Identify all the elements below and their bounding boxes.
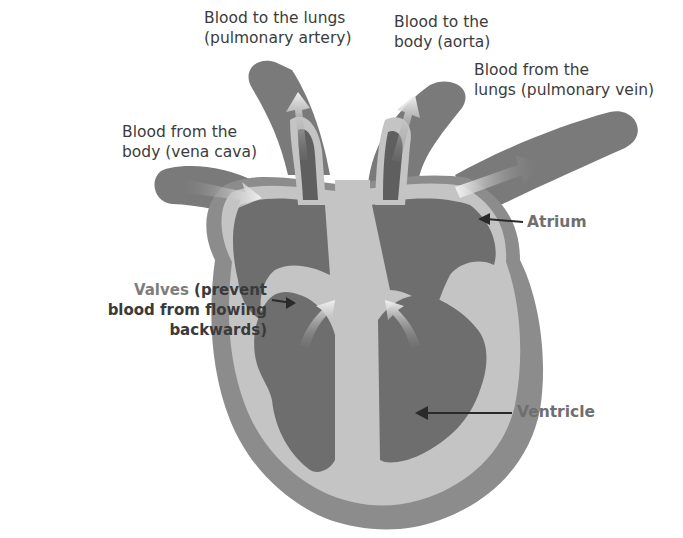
label-valves-line1-rest: (prevent: [189, 281, 267, 299]
septum: [335, 180, 372, 483]
label-vena-cava: Blood from the body (vena cava): [122, 122, 257, 162]
label-pulmonary-vein-line2: lungs (pulmonary vein): [474, 80, 654, 100]
label-valves-line3: backwards): [20, 320, 267, 340]
label-aorta-line1: Blood to the: [394, 12, 490, 32]
label-aorta-line2: body (aorta): [394, 32, 490, 52]
label-valves-line2: blood from flowing: [20, 300, 267, 320]
label-pulmonary-vein-line1: Blood from the: [474, 60, 654, 80]
label-pulmonary-artery: Blood to the lungs (pulmonary artery): [204, 8, 351, 48]
label-pulmonary-vein: Blood from the lungs (pulmonary vein): [474, 60, 654, 100]
label-aorta: Blood to the body (aorta): [394, 12, 490, 52]
label-vena-cava-line1: Blood from the: [122, 122, 257, 142]
label-pulmonary-artery-line1: Blood to the lungs: [204, 8, 351, 28]
label-pulmonary-artery-line2: (pulmonary artery): [204, 28, 351, 48]
label-ventricle: Ventricle: [517, 402, 595, 422]
label-atrium: Atrium: [527, 212, 587, 232]
label-vena-cava-line2: body (vena cava): [122, 142, 257, 162]
label-valves-term: Valves: [134, 281, 189, 299]
label-valves: Valves (prevent blood from flowing backw…: [20, 280, 267, 340]
label-valves-line1: Valves (prevent: [20, 280, 267, 300]
